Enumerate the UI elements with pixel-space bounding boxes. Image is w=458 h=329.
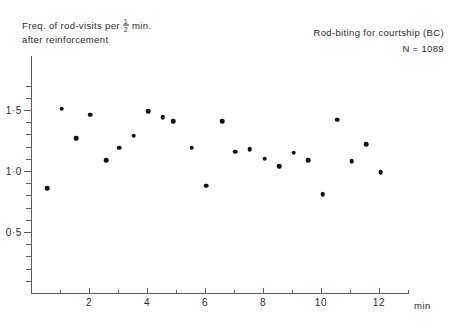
y-axis-major-tick [24, 171, 32, 172]
x-axis-minor-tick [350, 290, 351, 294]
data-point [349, 159, 354, 164]
data-point [104, 158, 109, 163]
x-axis-major-tick [379, 288, 380, 294]
x-axis-minor-tick [408, 290, 409, 294]
y-axis-minor-tick [26, 269, 31, 270]
data-point [74, 136, 79, 141]
x-axis-tick-label: 12 [373, 297, 385, 308]
data-point [291, 150, 296, 155]
x-axis-major-tick [321, 288, 322, 294]
x-axis-major-tick [263, 288, 264, 294]
y-axis-tick-label: 1·5 [6, 105, 22, 116]
data-point [335, 118, 340, 123]
y-axis-minor-tick [26, 220, 31, 221]
x-axis-minor-tick [176, 290, 177, 294]
data-point [378, 170, 383, 175]
y-axis-minor-tick [26, 244, 31, 245]
y-axis-minor-tick [26, 147, 31, 148]
data-point [117, 146, 122, 151]
y-axis-minor-tick [26, 208, 31, 209]
y-axis-minor-tick [26, 98, 31, 99]
y-axis-minor-tick [26, 159, 31, 160]
data-point [248, 147, 253, 152]
x-axis-minor-tick [60, 290, 61, 294]
data-point [45, 186, 50, 191]
plot-area: 0·51·01·524681012 min [0, 0, 458, 329]
scatter-plot-figure: Freq. of rod-visits per 1 2 min. after r… [0, 0, 458, 329]
y-axis-line [31, 56, 32, 294]
x-axis-minor-tick [118, 290, 119, 294]
data-point [220, 119, 225, 124]
y-axis-minor-tick [26, 122, 31, 123]
y-axis-minor-tick [26, 134, 31, 135]
y-axis-major-tick [24, 110, 32, 111]
y-axis-minor-tick [26, 281, 31, 282]
y-axis-minor-tick [26, 256, 31, 257]
x-axis-tick-label: 6 [202, 297, 208, 308]
y-axis-major-tick [24, 232, 32, 233]
y-axis-minor-tick [26, 86, 31, 87]
x-axis-tick-label: 2 [86, 297, 92, 308]
data-point [262, 157, 267, 162]
x-axis-major-tick [89, 288, 90, 294]
x-axis-minor-tick [292, 290, 293, 294]
x-axis-major-tick [147, 288, 148, 294]
y-axis-tick-label: 1·0 [6, 166, 22, 177]
data-point [320, 192, 325, 197]
data-point [161, 115, 166, 120]
x-axis-tick-label: 10 [315, 297, 327, 308]
data-point [306, 158, 311, 163]
data-point [146, 109, 151, 114]
x-axis-major-tick [205, 288, 206, 294]
x-axis-tick-label: 4 [144, 297, 150, 308]
data-point [132, 133, 137, 138]
x-axis-unit-label: min [414, 300, 431, 311]
data-point [364, 142, 369, 147]
y-axis-minor-tick [26, 195, 31, 196]
data-point [171, 119, 176, 124]
data-point [233, 149, 238, 154]
data-point [59, 107, 64, 112]
x-axis-line [31, 293, 409, 294]
x-axis-tick-label: 8 [260, 297, 266, 308]
data-point [88, 113, 93, 118]
y-axis-minor-tick [26, 183, 31, 184]
x-axis-minor-tick [234, 290, 235, 294]
data-point [204, 183, 209, 188]
y-axis-tick-label: 0·5 [6, 227, 22, 238]
data-point [190, 146, 195, 151]
data-point [277, 164, 282, 169]
